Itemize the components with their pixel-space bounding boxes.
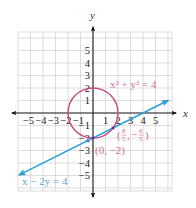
svg-text:(: (: [117, 129, 121, 142]
y-tick: −5: [79, 170, 90, 181]
y-tick: −1: [79, 120, 90, 131]
x-tick: 1: [103, 115, 108, 126]
x-tick: −5: [23, 115, 34, 126]
y-tick: 3: [85, 70, 90, 81]
x-tick: −4: [35, 115, 47, 126]
intersection-label-2: (0, −2): [95, 144, 125, 157]
x-tick-labels: −5 −4 −3 −2 −1 1 2 3 4 5: [23, 115, 158, 126]
grid: [18, 32, 172, 191]
x-tick: −3: [48, 115, 59, 126]
y-tick: −3: [79, 145, 90, 156]
intersection-point: [91, 136, 94, 139]
x-axis-label: x: [182, 107, 188, 119]
svg-text:6: 6: [139, 127, 143, 135]
svg-text:,: ,: [127, 129, 130, 141]
svg-text:5: 5: [122, 135, 126, 143]
svg-text:−: −: [131, 128, 137, 140]
graph-figure: x y −5 −4 −3 −2 −1 1 2 3 4 5 5 4 3 2 1 −…: [0, 0, 196, 208]
x-tick: 4: [140, 115, 146, 126]
y-tick: 5: [85, 45, 90, 56]
y-axis-label: y: [89, 9, 95, 21]
intersection-point: [111, 126, 114, 129]
x-tick: 5: [153, 115, 158, 126]
y-tick: −4: [79, 158, 91, 169]
y-tick: 1: [85, 95, 90, 106]
coordinate-plane: x y −5 −4 −3 −2 −1 1 2 3 4 5 5 4 3 2 1 −…: [0, 0, 196, 208]
y-tick: 4: [85, 58, 91, 69]
circle-equation-label: x² + y² = 4: [110, 78, 157, 90]
svg-text:): ): [145, 129, 149, 142]
intersection-label-1: ( 8 5 , − 6 5 ): [117, 127, 149, 143]
svg-text:5: 5: [139, 135, 143, 143]
line-equation-label: x − 2y = 4: [22, 175, 68, 187]
svg-text:8: 8: [122, 127, 126, 135]
